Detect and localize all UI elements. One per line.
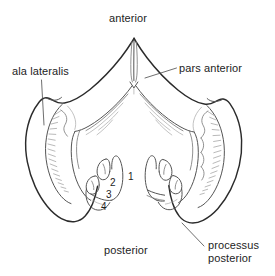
left-serration-wave [61, 110, 68, 136]
right-serration-wave-3 [201, 152, 204, 166]
left-median-process [112, 156, 123, 169]
right-wing-fold-2 [145, 103, 183, 135]
left-pars-anterior-inner-edge [75, 86, 132, 131]
right-lobe-mid [171, 176, 182, 194]
leader-ala-lateralis [42, 80, 45, 125]
leader-processus-posterior [182, 223, 204, 246]
right-median-process [146, 156, 157, 169]
label-processus-posterior-line1: processus [208, 239, 259, 252]
right-lobe-upper [159, 160, 172, 181]
left-lobe-groove-a [103, 164, 105, 174]
right-lobe-upper-inner [159, 159, 163, 171]
anatomical-drawing-svg [0, 0, 275, 276]
right-lateral-crease [193, 107, 201, 131]
label-processus-posterior-line2: posterior [208, 252, 252, 265]
right-wing-fold-3 [150, 112, 170, 130]
left-wing-fold-2 [86, 103, 123, 135]
left-lateral-crease [68, 106, 76, 129]
right-lobe-groove-b [175, 181, 177, 190]
midline-groove-right [136, 42, 138, 83]
figure-container: anterior ala lateralis pars anterior pos… [0, 0, 275, 276]
right-inner-ridge-2 [189, 130, 193, 170]
right-pars-anterior-inner-edge [136, 86, 194, 132]
midline-groove-left [131, 42, 133, 83]
left-inner-ridge-2 [77, 130, 80, 169]
label-ala-lateralis: ala lateralis [12, 65, 69, 78]
right-serration-wave-4 [201, 167, 204, 180]
numeral-2: 2 [110, 178, 116, 188]
right-lobe-groove-a [164, 165, 166, 175]
numeral-3: 3 [106, 190, 112, 200]
left-lobe-groove-b [92, 181, 94, 190]
numeral-1: 1 [128, 172, 134, 182]
left-inner-ridge [71, 131, 91, 200]
right-margin-hatching [200, 112, 221, 195]
right-serration-wave [201, 111, 208, 138]
apex-point [134, 38, 135, 39]
label-pars-anterior: pars anterior [179, 62, 242, 75]
numeral-4: 4 [101, 202, 107, 212]
left-lobe-2-inner [106, 159, 110, 171]
leader-pars-anterior [145, 68, 177, 78]
left-wing-fold-1 [86, 94, 128, 131]
left-wing-fold-4 [97, 120, 113, 135]
left-wing-fold-3 [99, 112, 118, 130]
right-serration-wave-2 [201, 138, 204, 152]
label-posterior: posterior [104, 244, 148, 257]
left-lobe-2 [97, 159, 110, 180]
label-anterior: anterior [109, 12, 147, 25]
left-lobe-3 [86, 176, 99, 194]
